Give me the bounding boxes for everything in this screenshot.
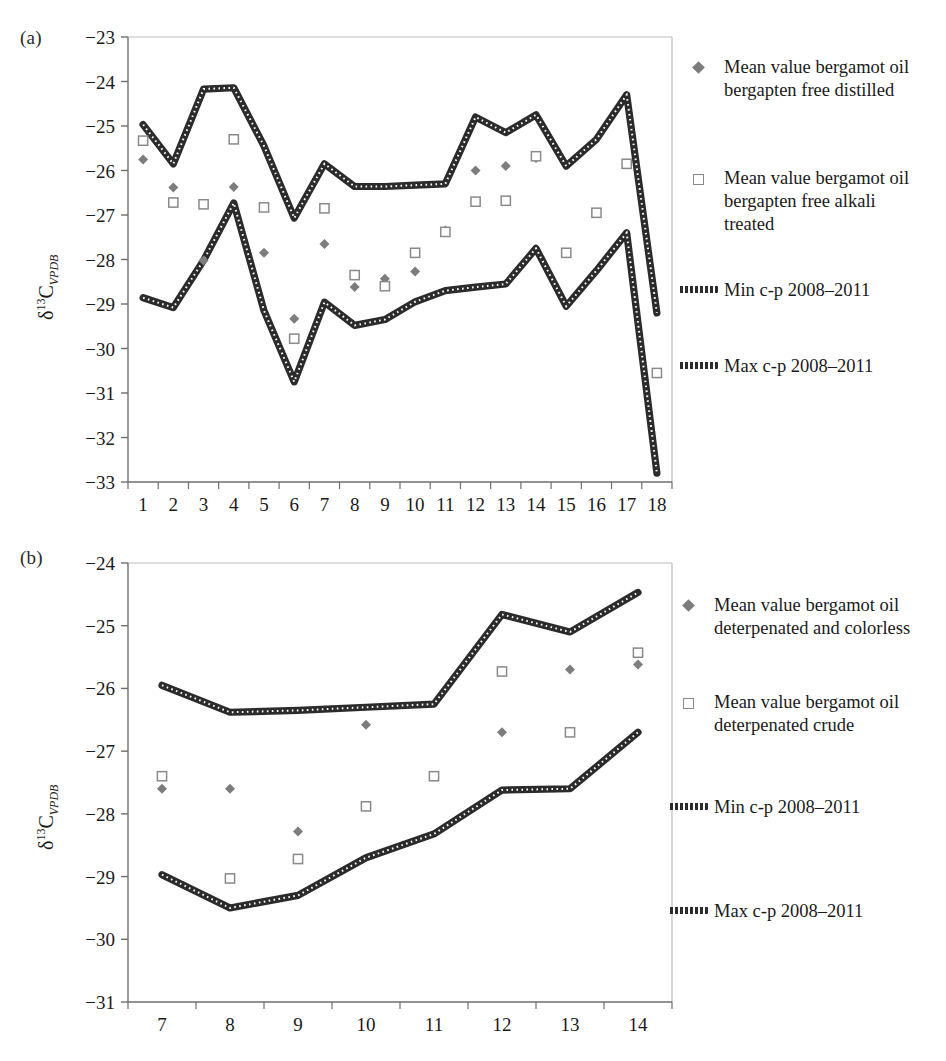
y-tick-label: −33 — [85, 472, 115, 493]
data-point-square — [429, 772, 438, 781]
data-point-diamond — [471, 166, 481, 176]
series-line-overlay — [162, 592, 638, 712]
series-line-overlay — [143, 203, 657, 473]
x-tick-label: 2 — [169, 494, 179, 515]
data-point-diamond — [501, 161, 511, 171]
x-tick-label: 16 — [587, 494, 606, 515]
series-line — [143, 203, 657, 473]
x-tick-label: 7 — [157, 1014, 167, 1035]
data-point-square — [199, 200, 208, 209]
x-tick-label: 18 — [647, 494, 666, 515]
x-tick-label: 9 — [380, 494, 390, 515]
y-tick-label: −29 — [85, 867, 115, 888]
series-line-overlay — [143, 88, 657, 313]
legend-label: Min c-p 2008–2011 — [714, 796, 860, 819]
dashed-line-icon — [672, 279, 724, 293]
x-tick-label: 10 — [357, 1014, 376, 1035]
legend-item-a-0: Mean value bergamot oil bergapten free d… — [672, 56, 909, 102]
legend-item-b-1: Mean value bergamot oil deterpenated cru… — [662, 691, 899, 737]
x-tick-label: 14 — [527, 494, 547, 515]
data-point-diamond — [157, 784, 167, 794]
data-point-square — [259, 203, 268, 212]
y-tick-label: −30 — [85, 339, 115, 360]
data-point-square — [293, 854, 302, 863]
x-tick-label: 13 — [561, 1014, 580, 1035]
data-point-diamond — [319, 239, 329, 249]
y-tick-label: −23 — [85, 27, 115, 48]
y-tick-label: −31 — [85, 992, 115, 1013]
x-tick-label: 4 — [229, 494, 239, 515]
legend-label: Min c-p 2008–2011 — [724, 279, 870, 302]
legend-label: Mean value bergamot oil bergapten free a… — [724, 167, 909, 236]
x-tick-label: 6 — [289, 494, 299, 515]
data-point-square — [320, 204, 329, 213]
panel-b: (b) δ13CVPDB −24−25−26−27−28−29−30−31789… — [0, 530, 946, 1061]
data-point-square — [441, 227, 450, 236]
diamond-marker-icon — [672, 56, 724, 72]
data-point-diamond — [361, 720, 371, 730]
y-tick-label: −29 — [85, 294, 115, 315]
series-line — [143, 88, 657, 313]
y-tick-label: −25 — [85, 116, 115, 137]
data-point-square — [350, 270, 359, 279]
x-tick-label: 11 — [436, 494, 454, 515]
x-tick-label: 14 — [629, 1014, 649, 1035]
data-point-square — [139, 136, 148, 145]
data-point-square — [633, 648, 642, 657]
figure-isotope-ratios: (a) δ13CVPDB −23−24−25−26−27−28−29−30−31… — [0, 0, 946, 1061]
data-point-diamond — [497, 727, 507, 737]
data-point-square — [562, 248, 571, 257]
data-point-square — [380, 282, 389, 291]
data-point-square — [592, 208, 601, 217]
data-point-diamond — [410, 267, 420, 277]
legend-label: Max c-p 2008–2011 — [714, 900, 863, 923]
y-tick-label: −28 — [85, 250, 115, 271]
data-point-diamond — [350, 282, 360, 292]
y-tick-label: −26 — [85, 161, 115, 182]
x-tick-label: 5 — [259, 494, 269, 515]
x-tick-label: 12 — [466, 494, 485, 515]
legend-label: Mean value bergamot oil deterpenated cru… — [714, 691, 899, 737]
data-point-diamond — [225, 784, 235, 794]
y-tick-label: −27 — [85, 205, 115, 226]
x-tick-label: 11 — [425, 1014, 443, 1035]
data-point-square — [565, 728, 574, 737]
data-point-diamond — [229, 182, 239, 192]
x-tick-label: 9 — [293, 1014, 303, 1035]
data-point-square — [652, 368, 661, 377]
x-tick-label: 12 — [493, 1014, 512, 1035]
data-point-diamond — [138, 154, 148, 164]
dashed-line-icon — [672, 355, 724, 369]
x-tick-label: 3 — [199, 494, 209, 515]
diamond-marker-icon — [662, 594, 714, 610]
legend-label: Mean value bergamot oil deterpenated and… — [714, 594, 910, 640]
series-line — [162, 592, 638, 712]
y-tick-label: −26 — [85, 678, 115, 699]
data-point-square — [411, 248, 420, 257]
square-marker-icon — [662, 691, 714, 709]
data-point-diamond — [168, 182, 178, 192]
x-tick-label: 10 — [406, 494, 425, 515]
y-tick-label: −30 — [85, 929, 115, 950]
data-point-square — [290, 334, 299, 343]
data-point-square — [622, 159, 631, 168]
y-tick-label: −31 — [85, 383, 115, 404]
dashed-line-icon — [662, 900, 714, 914]
y-tick-label: −27 — [85, 741, 115, 762]
legend-item-b-2: Min c-p 2008–2011 — [662, 796, 860, 819]
data-point-diamond — [289, 314, 299, 324]
y-tick-label: −24 — [85, 553, 115, 574]
y-tick-label: −28 — [85, 804, 115, 825]
x-tick-label: 17 — [617, 494, 636, 515]
data-point-square — [225, 874, 234, 883]
legend-label: Max c-p 2008–2011 — [724, 355, 873, 378]
legend-item-a-3: Max c-p 2008–2011 — [672, 355, 873, 378]
square-marker-icon — [672, 167, 724, 185]
x-tick-label: 1 — [138, 494, 148, 515]
legend-label: Mean value bergamot oil bergapten free d… — [724, 56, 909, 102]
y-tick-label: −25 — [85, 616, 115, 637]
legend-item-a-2: Min c-p 2008–2011 — [672, 279, 870, 302]
x-tick-label: 13 — [496, 494, 515, 515]
data-point-diamond — [293, 826, 303, 836]
data-point-square — [531, 152, 540, 161]
